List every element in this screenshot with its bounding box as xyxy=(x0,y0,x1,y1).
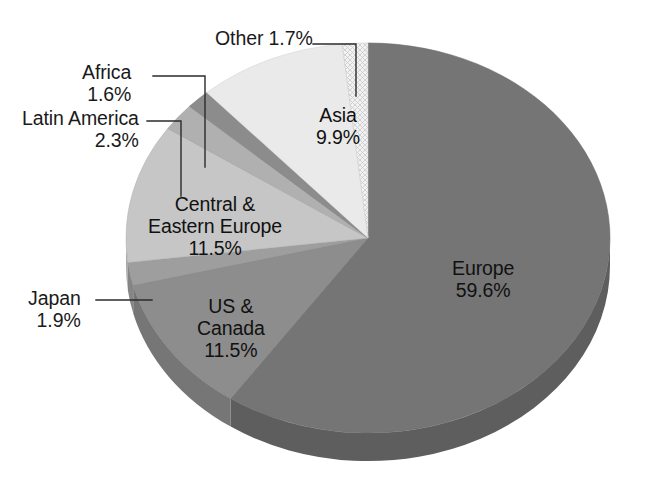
slice-label-latin-america-value: 2.3% xyxy=(22,130,139,152)
slice-label-japan: Japan 1.9% xyxy=(28,288,81,332)
slice-label-asia: Asia 9.9% xyxy=(316,105,360,149)
slice-label-us-canada-value: 11.5% xyxy=(197,340,265,362)
slice-label-asia-name: Asia xyxy=(316,105,360,127)
slice-label-us-canada-name-1: US & xyxy=(197,296,265,318)
slice-label-europe: Europe 59.6% xyxy=(452,258,514,302)
slice-label-central-eastern-europe-value: 11.5% xyxy=(148,238,282,260)
slice-label-africa: Africa 1.6% xyxy=(82,62,131,106)
slice-label-us-canada: US & Canada 11.5% xyxy=(197,296,265,361)
pie-chart: Other 1.7% Africa 1.6% Latin America 2.3… xyxy=(0,0,648,495)
slice-label-latin-america: Latin America 2.3% xyxy=(22,108,139,152)
slice-label-japan-value: 1.9% xyxy=(28,310,81,332)
slice-label-central-eastern-europe-name-1: Central & xyxy=(148,194,282,216)
slice-label-japan-name: Japan xyxy=(28,288,81,310)
slice-label-latin-america-name: Latin America xyxy=(22,108,139,130)
slice-label-other-text: Other 1.7% xyxy=(215,28,313,50)
slice-label-europe-name: Europe xyxy=(452,258,514,280)
slice-label-central-eastern-europe-name-2: Eastern Europe xyxy=(148,216,282,238)
slice-label-asia-value: 9.9% xyxy=(316,127,360,149)
slice-label-africa-name: Africa xyxy=(82,62,131,84)
slice-label-us-canada-name-2: Canada xyxy=(197,318,265,340)
slice-label-europe-value: 59.6% xyxy=(452,280,514,302)
slice-label-africa-value: 1.6% xyxy=(82,84,131,106)
slice-label-other: Other 1.7% xyxy=(215,28,313,50)
slice-label-central-eastern-europe: Central & Eastern Europe 11.5% xyxy=(148,194,282,259)
